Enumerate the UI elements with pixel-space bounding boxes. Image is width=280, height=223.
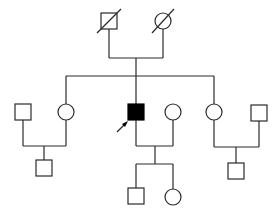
proband-arrow-icon (117, 121, 128, 132)
gen2-female-sibling-left (58, 104, 74, 120)
gen2-female-spouse (165, 104, 181, 120)
gen3-female-proband-daughter (165, 189, 181, 205)
gen2-sibship-line (66, 76, 214, 104)
pedigree-chart (0, 0, 280, 223)
gen2-male-spouse-left (15, 104, 31, 120)
gen1-couple-lines (109, 29, 163, 76)
right-family-lines (214, 120, 259, 163)
gen3-male-left-child (36, 160, 52, 176)
gen2-male-spouse-right (251, 105, 267, 121)
gen3-male-proband-son (128, 188, 144, 204)
proband-family-lines (136, 120, 173, 189)
left-family-lines (23, 120, 66, 160)
gen2-female-sibling-right (206, 104, 222, 120)
proband-affected-male (128, 104, 144, 120)
gen3-male-right-child (228, 163, 244, 179)
